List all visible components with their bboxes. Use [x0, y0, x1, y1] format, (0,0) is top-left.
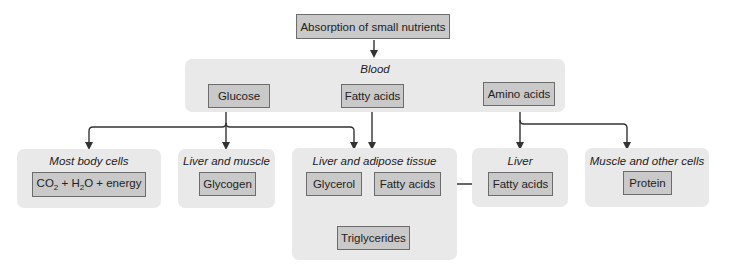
triglycerides-label: Triglycerides: [341, 232, 406, 244]
liver-and-muscle-title: Liver and muscle: [178, 155, 275, 167]
glycogen-label: Glycogen: [203, 178, 252, 190]
triglycerides-node: Triglycerides: [337, 226, 410, 250]
protein-node: Protein: [623, 171, 672, 195]
protein-label: Protein: [629, 177, 665, 189]
adipose-fatty-acids-label: Fatty acids: [380, 178, 436, 190]
liver-title: Liver: [472, 155, 568, 167]
liver-fatty-acids-node: Fatty acids: [488, 172, 553, 196]
blood-title: Blood: [185, 63, 565, 75]
glycogen-node: Glycogen: [199, 172, 256, 196]
glucose-node: Glucose: [208, 84, 270, 108]
co2-h2o-energy-node: CO2 + H2O + energy: [32, 172, 146, 197]
blood-fatty-acids-node: Fatty acids: [341, 84, 404, 108]
blood-fatty-acids-label: Fatty acids: [345, 90, 401, 102]
glycerol-node: Glycerol: [306, 172, 362, 196]
amino-acids-node: Amino acids: [483, 82, 555, 106]
glycerol-label: Glycerol: [313, 178, 355, 190]
liver-adipose-title: Liver and adipose tissue: [292, 155, 457, 167]
absorption-label: Absorption of small nutrients: [300, 21, 445, 33]
adipose-fatty-acids-node: Fatty acids: [374, 172, 441, 196]
amino-acids-label: Amino acids: [488, 88, 551, 100]
co2-h2o-energy-label: CO2 + H2O + energy: [37, 177, 142, 192]
absorption-node: Absorption of small nutrients: [296, 14, 450, 39]
most-body-cells-title: Most body cells: [17, 155, 161, 167]
glucose-label: Glucose: [218, 90, 260, 102]
liver-fatty-acids-label: Fatty acids: [493, 178, 549, 190]
muscle-other-title: Muscle and other cells: [585, 155, 709, 167]
